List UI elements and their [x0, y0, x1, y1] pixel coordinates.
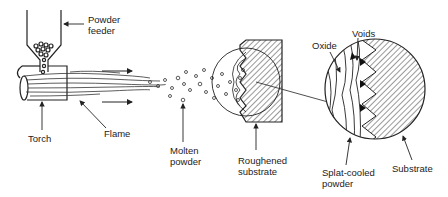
label-oxide: Oxide — [312, 40, 337, 51]
label-voids: Voids — [352, 28, 375, 39]
label-substrate: Substrate — [392, 163, 433, 174]
flame-icon — [24, 71, 165, 96]
label-flame: Flame — [104, 128, 130, 139]
powder-feeder-icon — [27, 10, 61, 74]
spray-coating-diagram: Powder feeder Torch Flame Molten powder … — [0, 0, 448, 197]
label-torch: Torch — [28, 133, 51, 144]
label-roughened-substrate: Roughened substrate — [238, 155, 287, 177]
label-powder-feeder: Powder feeder — [88, 14, 120, 36]
splat-detail-icon — [320, 35, 440, 145]
label-molten-powder: Molten powder — [170, 145, 201, 167]
roughened-substrate-icon — [212, 40, 282, 122]
diagram-graphic — [0, 0, 448, 197]
label-splat-cooled-powder: Splat-cooled powder — [322, 167, 375, 189]
